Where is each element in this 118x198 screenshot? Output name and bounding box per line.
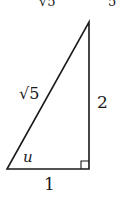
right-angle-marker (81, 161, 89, 169)
opposite-side-label: 2 (97, 92, 108, 112)
adjacent-side-label: 1 (44, 174, 55, 194)
top-cutoff-text-2: 5 (108, 0, 116, 9)
hypotenuse-label: √5 (19, 84, 39, 103)
angle-label: u (23, 148, 33, 166)
triangle-diagram: √5 5 √5 2 u 1 (0, 0, 118, 198)
top-cutoff-text-1: √5 (39, 0, 56, 9)
